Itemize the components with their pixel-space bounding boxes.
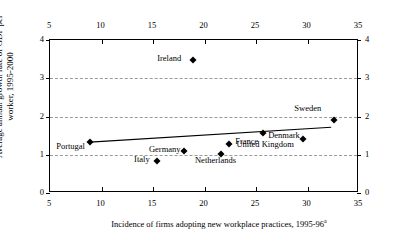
xtick-label-bottom-30: 30 xyxy=(302,199,311,208)
ytick-label-left-3: 3 xyxy=(32,73,44,82)
tick-y-left-0 xyxy=(46,193,50,194)
xtick-label-top-30: 30 xyxy=(302,21,311,30)
data-point-label: Portugal xyxy=(56,142,85,151)
ytick-label-right-0: 0 xyxy=(365,188,369,197)
data-point-label: Ireland xyxy=(157,54,181,63)
data-point-label: Germany xyxy=(149,145,181,154)
xtick-label-bottom-5: 5 xyxy=(47,199,51,208)
tick-y-right-0 xyxy=(357,193,361,194)
x-axis-title-text: Incidence of firms adopting new workplac… xyxy=(111,219,324,229)
x-axis-title-footnote-marker: a xyxy=(324,218,327,224)
xtick-label-top-35: 35 xyxy=(354,21,363,30)
ytick-label-right-2: 2 xyxy=(365,111,369,120)
xtick-label-top-5: 5 xyxy=(47,21,51,30)
xtick-label-top-20: 20 xyxy=(199,21,208,30)
y-axis-title-line2: worker, 1995-2000 xyxy=(5,10,16,163)
xtick-label-bottom-35: 35 xyxy=(354,199,363,208)
xtick-label-bottom-25: 25 xyxy=(251,199,260,208)
tick-y-right-2 xyxy=(357,117,361,118)
chart-figure: Average annual growth rate of GDP per wo… xyxy=(0,0,399,236)
xtick-label-top-10: 10 xyxy=(96,21,105,30)
data-point-label: Netherlands xyxy=(195,156,236,165)
ytick-label-left-0: 0 xyxy=(32,188,44,197)
ytick-label-left-4: 4 xyxy=(32,35,44,44)
trendline xyxy=(50,40,357,191)
xtick-label-bottom-15: 15 xyxy=(148,199,157,208)
plot-area: PortugalItalyGermanyIrelandNetherlandsFr… xyxy=(49,39,358,192)
x-axis-title: Incidence of firms adopting new workplac… xyxy=(49,216,389,229)
tick-y-right-4 xyxy=(357,40,361,41)
ytick-label-right-4: 4 xyxy=(365,35,369,44)
xtick-label-bottom-20: 20 xyxy=(199,199,208,208)
y-axis-title: Average annual growth rate of GDP per wo… xyxy=(0,10,16,163)
tick-y-right-3 xyxy=(357,78,361,79)
data-point-label: United Kingdom xyxy=(236,140,293,149)
xtick-label-top-25: 25 xyxy=(251,21,260,30)
data-point-label: Italy xyxy=(134,155,150,164)
ytick-label-left-2: 2 xyxy=(32,111,44,120)
data-point-label: Sweden xyxy=(294,104,321,113)
xtick-label-top-15: 15 xyxy=(148,21,157,30)
ytick-label-right-3: 3 xyxy=(365,73,369,82)
ytick-label-left-1: 1 xyxy=(32,149,44,158)
xtick-label-bottom-10: 10 xyxy=(96,199,105,208)
ytick-label-right-1: 1 xyxy=(365,149,369,158)
tick-y-right-1 xyxy=(357,155,361,156)
